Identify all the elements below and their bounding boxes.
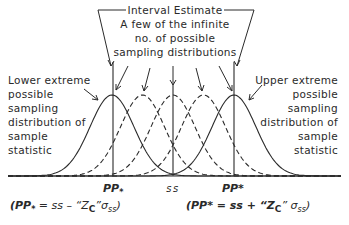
lower-extreme-pointer <box>84 89 98 100</box>
lower-extreme-label-2: possible <box>8 88 53 100</box>
pointer-arrow-1 <box>116 66 128 90</box>
upper-extreme-label-2: possible <box>293 88 338 100</box>
sample-statistic-label: ss <box>166 183 179 194</box>
upper-extreme-label-6: statistic <box>294 144 338 156</box>
upper-limit-formula: (PP* = ss + “ZC” σss) <box>186 199 310 214</box>
lower-extreme-label-5: sample <box>8 130 48 142</box>
upper-extreme-label-5: sample <box>298 130 338 142</box>
upper-extreme-label-4: distribution of <box>260 116 338 128</box>
lower-extreme-label-6: statistic <box>8 144 52 156</box>
sampling-distribution-diagram: Interval Estimate A few of the infinite … <box>0 0 349 225</box>
arrowhead-right-bracket <box>234 60 240 66</box>
lower-limit-label: PP* <box>103 182 124 197</box>
lower-extreme-label-1: Lower extreme <box>8 74 91 86</box>
lower-extreme-label-3: sampling <box>8 102 58 114</box>
lower-limit-formula: (PP* = ss – “ZC”σss) <box>10 199 121 214</box>
upper-extreme-label-3: sampling <box>288 102 338 114</box>
title-line-3: no. of possible <box>135 32 216 44</box>
title-interval-estimate: Interval Estimate <box>127 4 222 16</box>
pointer-arrow-5 <box>219 66 232 91</box>
title-line-4: sampling distributions <box>113 46 236 58</box>
upper-extreme-label-1: Upper extreme <box>255 74 338 86</box>
title-line-2: A few of the infinite <box>120 18 229 30</box>
lower-limit-subscript: * <box>119 188 124 197</box>
upper-limit-label: PP* <box>222 182 244 195</box>
upper-extreme-pointer <box>249 85 262 100</box>
lower-extreme-label-4: distribution of <box>8 116 86 128</box>
